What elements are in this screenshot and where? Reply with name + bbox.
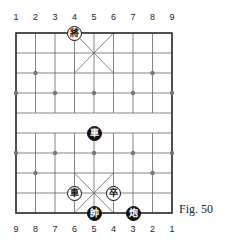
top-file-label: 2 <box>30 12 42 22</box>
bottom-file-label: 5 <box>88 224 100 234</box>
top-file-label: 4 <box>69 12 81 22</box>
position-marker <box>170 151 174 155</box>
position-marker <box>150 171 154 175</box>
position-marker <box>92 151 96 155</box>
position-marker <box>14 151 18 155</box>
position-marker <box>92 91 96 95</box>
piece-black-pawn[interactable]: 卒 <box>106 186 121 201</box>
piece-black-general[interactable]: 將 <box>67 26 82 41</box>
position-marker <box>150 71 154 75</box>
piece-red-cannon[interactable]: 炮 <box>126 206 141 221</box>
top-file-label: 6 <box>108 12 120 22</box>
position-marker <box>14 91 18 95</box>
position-marker <box>53 91 57 95</box>
top-file-label: 7 <box>127 12 139 22</box>
position-marker <box>53 151 57 155</box>
position-marker <box>131 151 135 155</box>
top-file-label: 9 <box>166 12 178 22</box>
bottom-file-label: 1 <box>166 224 178 234</box>
piece-red-chariot[interactable]: 車 <box>87 126 102 141</box>
bottom-file-label: 8 <box>30 224 42 234</box>
bottom-file-label: 9 <box>10 224 22 234</box>
bottom-file-label: 7 <box>49 224 61 234</box>
bottom-file-label: 4 <box>108 224 120 234</box>
piece-red-general[interactable]: 帥 <box>87 206 102 221</box>
top-file-label: 3 <box>49 12 61 22</box>
top-file-label: 8 <box>147 12 159 22</box>
bottom-file-label: 2 <box>147 224 159 234</box>
bottom-file-label: 3 <box>127 224 139 234</box>
piece-black-chariot[interactable]: 車 <box>67 186 82 201</box>
figure-caption: Fig. 50 <box>179 202 213 217</box>
top-file-label: 5 <box>88 12 100 22</box>
position-marker <box>170 91 174 95</box>
position-marker <box>131 91 135 95</box>
position-marker <box>33 71 37 75</box>
bottom-file-label: 6 <box>69 224 81 234</box>
top-file-label: 1 <box>10 12 22 22</box>
position-marker <box>33 171 37 175</box>
